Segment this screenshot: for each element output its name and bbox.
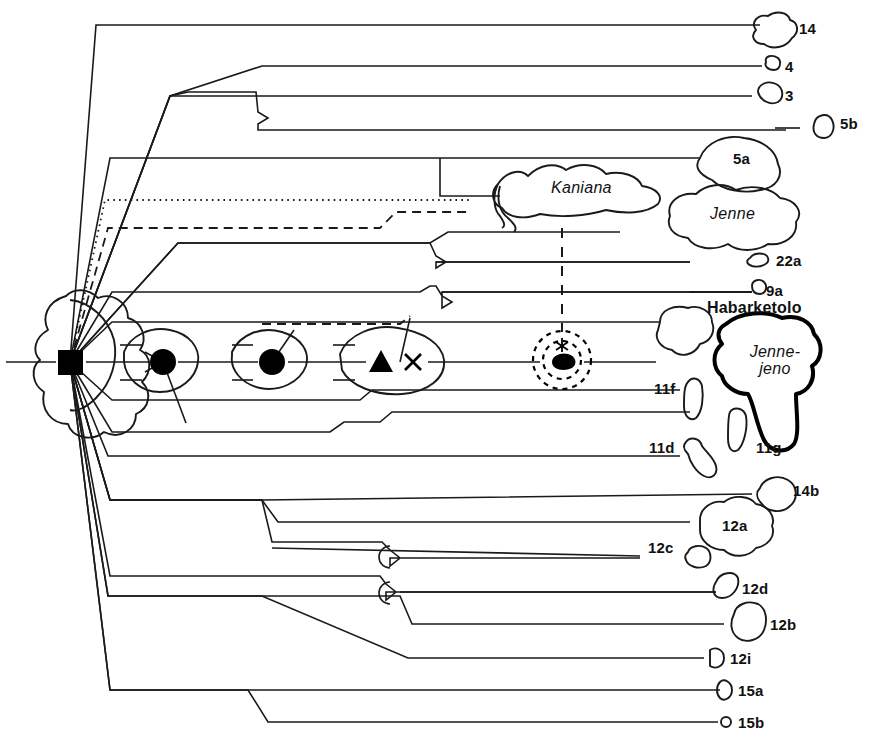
label-14b: 14b (793, 483, 819, 498)
branch-14 (70, 25, 760, 362)
filled-triangle-marker (369, 350, 393, 372)
branch-4 (70, 66, 762, 362)
label-jenne-jeno-line1: Jenne- (750, 343, 801, 360)
label-9a: 9a (766, 283, 783, 298)
branch-dotted (70, 200, 470, 362)
label-habarketolo: Habarketolo (707, 300, 802, 316)
label-4: 4 (785, 59, 794, 74)
outline-habarketolo (657, 307, 713, 355)
outline-12c (685, 546, 710, 568)
outline-5b (813, 115, 833, 138)
branch-12b (70, 362, 724, 624)
label-12c: 12c (648, 540, 674, 555)
outline-11g (728, 409, 747, 452)
x-cross-marker (405, 354, 421, 370)
label-15a: 15a (738, 683, 764, 698)
branch-15b (70, 362, 718, 722)
outline-12i (710, 648, 724, 667)
outline-kaniana (493, 165, 660, 228)
label-jenne-jeno: Jenne- jeno (740, 344, 810, 378)
label-11f: 11f (654, 381, 675, 396)
label-jenne-jeno-line2: jeno (759, 360, 790, 377)
label-22a: 22a (776, 253, 802, 268)
inner-filled-blob (552, 353, 575, 370)
filled-circle-marker-1 (150, 349, 176, 375)
label-12a: 12a (722, 518, 748, 533)
label-12i: 12i (730, 651, 751, 666)
label-12d: 12d (742, 581, 768, 596)
branch-12i (70, 362, 704, 658)
branch-9a (70, 286, 752, 362)
label-3: 3 (785, 88, 794, 103)
label-11g: 11g (756, 440, 782, 455)
outline-4 (765, 56, 780, 70)
connector-lines (6, 25, 800, 722)
label-15b: 15b (738, 715, 764, 730)
outline-kaniana-tail (498, 186, 515, 232)
outline-12b (731, 602, 766, 640)
outline-11d (684, 439, 717, 478)
label-5a: 5a (733, 151, 750, 166)
label-14: 14 (799, 21, 816, 36)
outline-3 (758, 82, 782, 103)
outline-11f (684, 379, 703, 420)
branch-kaniana (440, 158, 500, 196)
filled-square-marker (58, 350, 83, 375)
filled-circle-marker-2 (259, 349, 285, 375)
label-11d: 11d (649, 440, 675, 455)
outline-14 (753, 13, 797, 48)
outline-15b (721, 717, 731, 727)
branch-12c-run (272, 548, 640, 556)
label-5b: 5b (840, 116, 858, 131)
label-jenne: Jenne (710, 206, 755, 222)
outline-blob-tri (340, 327, 444, 394)
settlement-cluster-figure: 14 4 3 5b 5a Kaniana Jenne 22a 9a Habark… (0, 0, 874, 744)
branch-22a (70, 243, 690, 362)
branch-dashed-upper (70, 212, 470, 362)
branch-11d (70, 362, 680, 456)
outline-22a (747, 254, 768, 267)
branch-jenne (70, 232, 620, 362)
star-icon (556, 338, 568, 352)
outline-9a (752, 280, 766, 294)
branch-14b (70, 362, 752, 500)
outline-jenne-jeno (715, 313, 821, 450)
label-kaniana: Kaniana (551, 180, 612, 196)
label-12b: 12b (770, 617, 796, 632)
outline-12d (714, 573, 739, 598)
